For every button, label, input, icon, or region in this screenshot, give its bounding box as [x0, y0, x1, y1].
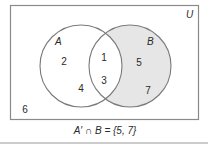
set-a-label: A — [54, 36, 62, 47]
element-a-only: 2 — [61, 56, 67, 67]
set-b-label: B — [147, 36, 154, 47]
element-a-only: 4 — [78, 83, 84, 94]
element-b-only: 7 — [145, 85, 151, 96]
venn-diagram: U A B 2 4 1 3 5 7 6 A′ ∩ B = {5, 7} — [0, 0, 208, 148]
caption-formula: A′ ∩ B = {5, 7} — [73, 125, 137, 136]
element-outside: 6 — [22, 104, 28, 115]
universe-label: U — [186, 9, 194, 20]
element-b-only: 5 — [136, 57, 142, 68]
element-intersection: 1 — [101, 52, 107, 63]
element-intersection: 3 — [101, 75, 107, 86]
